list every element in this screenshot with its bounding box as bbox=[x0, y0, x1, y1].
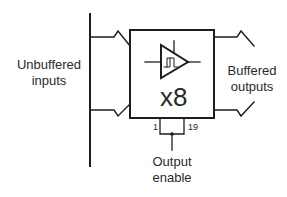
unbuffered-inputs-label: Unbuffered inputs bbox=[14, 57, 84, 89]
pin-1-label: 1 bbox=[153, 122, 158, 132]
input-bundle-top bbox=[90, 31, 130, 46]
input-bundle-bottom bbox=[90, 104, 130, 116]
outputs-label-line2: outputs bbox=[222, 79, 282, 95]
buffered-outputs-label: Buffered outputs bbox=[222, 63, 282, 95]
output-enable-bracket bbox=[160, 118, 184, 134]
enable-label-line2: enable bbox=[140, 170, 204, 186]
schmitt-buffer-icon bbox=[145, 41, 200, 78]
hysteresis-icon bbox=[164, 58, 178, 67]
pin-19-label: 19 bbox=[188, 122, 198, 132]
output-enable-label: Output enable bbox=[140, 154, 204, 186]
outputs-label-line1: Buffered bbox=[222, 63, 282, 79]
multiplier-label: x8 bbox=[160, 84, 187, 110]
junction-dot bbox=[170, 132, 174, 136]
output-bundle-top bbox=[214, 31, 254, 46]
inputs-label-line2: inputs bbox=[14, 73, 84, 89]
output-bundle-bottom bbox=[214, 102, 254, 116]
inputs-label-line1: Unbuffered bbox=[14, 57, 84, 73]
enable-label-line1: Output bbox=[140, 154, 204, 170]
